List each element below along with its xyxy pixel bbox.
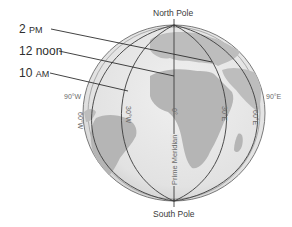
- south-pole-label: South Pole: [153, 209, 195, 219]
- label-2pm: 2 PM: [19, 22, 43, 36]
- label-60w: 60°W: [77, 112, 84, 129]
- label-2pm-hour: 2: [19, 22, 26, 36]
- label-0: 0°: [171, 108, 178, 115]
- north-pole-label: North Pole: [153, 8, 193, 18]
- label-30w: 30°W: [125, 106, 132, 123]
- label-12noon: 12 noon: [19, 44, 62, 58]
- label-60e: 60°E: [252, 110, 259, 125]
- label-10am: 10 AM: [19, 66, 49, 80]
- label-10am-suffix: AM: [36, 69, 50, 79]
- label-10am-hour: 10: [19, 66, 32, 80]
- globe-diagram: 2 PM 12 noon 10 AM North Pole South Pole…: [0, 0, 292, 227]
- label-12noon-text: 12 noon: [19, 44, 62, 58]
- label-30e: 30°E: [221, 106, 228, 121]
- label-2pm-suffix: PM: [29, 25, 43, 35]
- label-90w: 90°W: [64, 93, 81, 100]
- label-90e: 90°E: [266, 93, 281, 100]
- prime-meridian-label: Prime Meridian: [170, 134, 179, 186]
- globe-graphic: [0, 0, 292, 227]
